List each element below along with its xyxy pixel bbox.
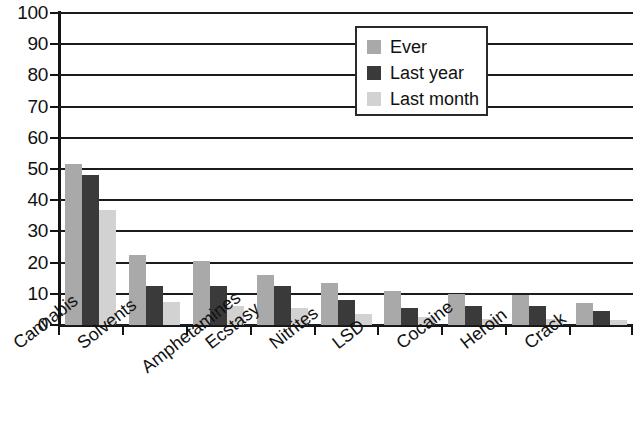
y-axis-tick-mark	[50, 12, 59, 14]
legend-label: Last month	[390, 90, 479, 108]
y-axis-tick-label: 20	[4, 253, 48, 272]
x-axis-tick-mark	[122, 326, 124, 335]
y-axis-tick-mark	[50, 293, 59, 295]
y-axis-tick-mark	[50, 262, 59, 264]
legend-swatch-icon	[367, 40, 381, 54]
y-axis-tick-mark	[50, 324, 59, 326]
x-axis-tick-mark	[505, 326, 507, 335]
x-axis-tick-mark	[250, 326, 252, 335]
legend-label: Ever	[390, 38, 427, 56]
x-axis-label-group: CannabisSolventsAmphetaminesEcstasyNitri…	[0, 0, 633, 120]
bar	[321, 283, 338, 325]
legend-item: Ever	[367, 34, 486, 60]
bar	[384, 291, 401, 325]
bar-chart: 0102030405060708090100 CannabisSolventsA…	[0, 0, 633, 445]
bar	[82, 175, 99, 325]
bar	[593, 311, 610, 325]
bar	[576, 303, 593, 325]
legend-item: Last year	[367, 60, 486, 86]
y-axis-tick-mark	[50, 74, 59, 76]
y-axis-tick-mark	[50, 230, 59, 232]
legend-swatch-icon	[367, 66, 381, 80]
y-axis-tick-label: 50	[4, 159, 48, 178]
y-axis-tick-label: 60	[4, 128, 48, 147]
bar	[257, 275, 274, 325]
bar	[610, 320, 627, 325]
x-axis-tick-mark	[569, 326, 571, 335]
legend-swatch-icon	[367, 92, 381, 106]
x-axis-tick-mark	[314, 326, 316, 335]
legend: EverLast yearLast month	[355, 26, 488, 116]
y-axis-tick-label: 40	[4, 190, 48, 209]
bar	[163, 302, 180, 325]
y-axis-tick-label: 30	[4, 221, 48, 240]
y-axis-tick-label: 10	[4, 284, 48, 303]
y-axis-tick-mark	[50, 199, 59, 201]
y-axis-tick-mark	[50, 137, 59, 139]
y-axis-tick-mark	[50, 43, 59, 45]
legend-label: Last year	[390, 64, 464, 82]
y-axis-tick-mark	[50, 168, 59, 170]
bar	[512, 295, 529, 325]
bar	[146, 286, 163, 325]
x-axis-tick-mark	[58, 326, 60, 335]
y-axis-tick-mark	[50, 106, 59, 108]
x-axis-tick-mark	[441, 326, 443, 335]
x-axis-tick-mark	[377, 326, 379, 335]
legend-item: Last month	[367, 86, 486, 112]
